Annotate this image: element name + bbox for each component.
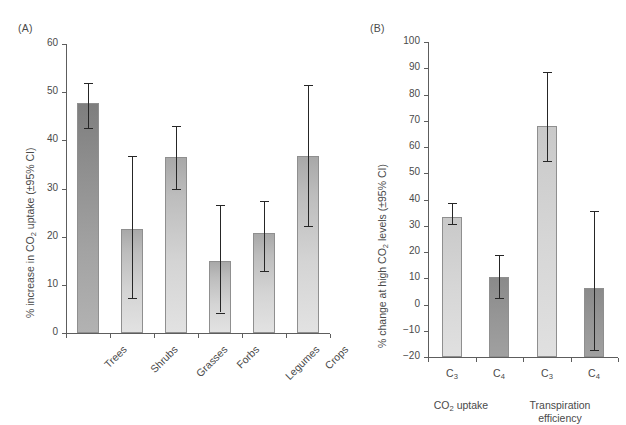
panel-b-x-tick — [523, 358, 524, 362]
panel-a-y-axis — [66, 44, 67, 334]
panel-a-plot-area: 0102030405060TreesShrubsGrassesForbsLegu… — [0, 0, 340, 425]
category-label-subscript: 3 — [549, 372, 553, 381]
panel-a-category-label-trees: Trees — [102, 343, 129, 370]
panel-b-y-tick-label: 60 — [392, 140, 420, 151]
panel-b: (B) % change at high CO2 levels (±95% CI… — [340, 0, 626, 425]
panel-a-error-cap-high — [172, 126, 181, 127]
category-label-main: C — [493, 367, 501, 379]
panel-a-category-label-legumes: Legumes — [283, 343, 322, 382]
panel-a-y-tick-label: 0 — [32, 326, 58, 337]
panel-a-y-tick-label: 40 — [32, 133, 58, 144]
panel-a-bar-trees — [77, 103, 99, 333]
panel-a-error-cap-low — [128, 298, 137, 299]
panel-b-x-tick — [428, 358, 429, 362]
panel-b-y-tick-label: 20 — [392, 245, 420, 256]
panel-b-error-cap-high — [590, 211, 599, 212]
group-label-subscript: 2 — [450, 404, 454, 413]
panel-a-y-tick — [62, 189, 66, 190]
panel-b-y-tick — [424, 252, 428, 253]
panel-b-y-tick-label: 10 — [392, 271, 420, 282]
panel-a-error-cap-low — [216, 313, 225, 314]
panel-b-error-cap-low — [590, 350, 599, 351]
panel-b-y-tick-label: 100 — [392, 35, 420, 46]
panel-a-x-tick — [110, 334, 111, 338]
panel-b-error-cap-low — [448, 224, 457, 225]
panel-b-error-cap-low — [495, 298, 504, 299]
panel-b-y-tick — [424, 173, 428, 174]
panel-b-y-tick-label: 80 — [392, 88, 420, 99]
panel-b-y-tick-label: −10 — [392, 324, 420, 335]
panel-b-y-tick-label: 40 — [392, 193, 420, 204]
panel-b-error-cap-high — [543, 72, 552, 73]
panel-a-y-tick-label: 30 — [32, 182, 58, 193]
panel-a-error-cap-low — [84, 128, 93, 129]
panel-b-error-bar-0 — [452, 203, 453, 224]
panel-b-y-axis — [428, 42, 429, 358]
panel-a-y-tick — [62, 285, 66, 286]
panel-b-error-cap-low — [543, 161, 552, 162]
panel-b-y-tick — [424, 42, 428, 43]
panel-b-error-cap-high — [495, 255, 504, 256]
panel-b-category-label-3: C4 — [574, 367, 614, 379]
panel-a-x-tick — [154, 334, 155, 338]
panel-b-group-label-co2-uptake: CO2 uptake — [406, 399, 516, 413]
panel-b-group-label-transpiration: Transpirationefficiency — [505, 399, 615, 425]
panel-b-category-label-2: C3 — [527, 367, 567, 379]
panel-a-error-cap-high — [128, 156, 137, 157]
panel-a-x-tick — [242, 334, 243, 338]
panel-b-y-tick-label: 70 — [392, 114, 420, 125]
panel-b-error-bar-2 — [547, 72, 548, 161]
panel-b-y-tick — [424, 121, 428, 122]
panel-b-y-tick-label: 90 — [392, 61, 420, 72]
panel-a-category-label-shrubs: Shrubs — [148, 343, 180, 375]
category-label-subscript: 4 — [501, 372, 505, 381]
category-label-subscript: 3 — [454, 372, 458, 381]
panel-b-plot-area: 1009080706050403020100−10−20C3C4C3C4 — [340, 0, 626, 425]
panel-a-error-cap-high — [216, 205, 225, 206]
figure-canvas: (A) % increase in CO2 uptake (±95% CI) 0… — [0, 0, 626, 425]
panel-b-error-bar-1 — [499, 255, 500, 299]
panel-b-category-label-0: C3 — [432, 367, 472, 379]
panel-a: (A) % increase in CO2 uptake (±95% CI) 0… — [0, 0, 340, 425]
panel-a-x-tick — [330, 334, 331, 338]
panel-a-y-tick-label: 10 — [32, 278, 58, 289]
category-label-subscript: 4 — [596, 372, 600, 381]
category-label-main: C — [588, 367, 596, 379]
category-label-main: C — [446, 367, 454, 379]
panel-b-y-tick — [424, 226, 428, 227]
panel-b-y-tick-label: 30 — [392, 219, 420, 230]
panel-b-x-tick — [571, 358, 572, 362]
panel-b-y-tick-label: 0 — [392, 298, 420, 309]
panel-b-y-tick-label: −20 — [392, 350, 420, 361]
panel-b-bar-0 — [442, 217, 462, 357]
panel-a-y-tick — [62, 92, 66, 93]
panel-a-error-cap-low — [260, 271, 269, 272]
group-label-part-1: CO — [434, 399, 450, 411]
panel-b-error-cap-high — [448, 203, 457, 204]
panel-a-error-cap-low — [304, 226, 313, 227]
panel-a-x-tick — [66, 334, 67, 338]
panel-a-error-bar-crops — [308, 85, 309, 226]
panel-a-y-tick-label: 60 — [32, 37, 58, 48]
panel-b-y-tick — [424, 95, 428, 96]
panel-b-y-tick — [424, 305, 428, 306]
panel-a-error-cap-high — [84, 83, 93, 84]
panel-a-error-bar-legumes — [264, 201, 265, 272]
panel-a-error-cap-high — [304, 85, 313, 86]
panel-b-y-tick — [424, 147, 428, 148]
panel-a-error-bar-shrubs — [132, 156, 133, 298]
panel-a-y-tick-label: 50 — [32, 85, 58, 96]
panel-a-error-cap-high — [260, 201, 269, 202]
panel-b-y-tick — [424, 278, 428, 279]
category-label-main: C — [541, 367, 549, 379]
panel-a-error-bar-trees — [88, 83, 89, 129]
panel-a-category-label-grasses: Grasses — [193, 343, 229, 379]
panel-b-y-tick-label: 50 — [392, 166, 420, 177]
panel-a-x-tick — [286, 334, 287, 338]
panel-a-y-tick-label: 20 — [32, 230, 58, 241]
panel-b-category-label-1: C4 — [479, 367, 519, 379]
panel-a-y-tick — [62, 237, 66, 238]
group-label-part-2: uptake — [454, 399, 488, 411]
panel-a-x-tick — [198, 334, 199, 338]
panel-a-y-tick — [62, 44, 66, 45]
